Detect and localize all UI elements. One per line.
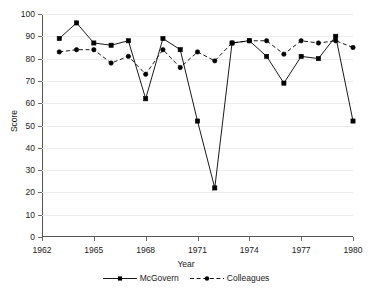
data-point-marker	[351, 119, 355, 123]
chart-legend: McGovernColleagues	[0, 274, 372, 283]
data-point-marker	[316, 57, 320, 61]
data-point-marker	[161, 36, 165, 40]
data-point-marker	[109, 43, 113, 47]
data-point-marker	[351, 45, 355, 49]
data-point-marker	[282, 52, 286, 56]
data-point-marker	[92, 41, 96, 45]
data-point-marker	[161, 47, 165, 51]
data-point-marker	[178, 48, 182, 52]
legend-dashed-line-circle-icon	[190, 274, 224, 283]
series-line	[59, 23, 353, 188]
data-point-marker	[282, 81, 286, 85]
data-point-marker	[213, 186, 217, 190]
legend-item-mcgovern[interactable]: McGovern	[103, 274, 179, 283]
data-point-marker	[92, 47, 96, 51]
data-point-marker	[195, 50, 199, 54]
data-point-marker	[195, 119, 199, 123]
data-point-marker	[334, 34, 338, 38]
data-point-marker	[299, 54, 303, 58]
legend-label: McGovern	[140, 274, 179, 283]
series-layer	[0, 0, 372, 289]
data-point-marker	[265, 54, 269, 58]
data-point-marker	[74, 21, 78, 25]
data-point-marker	[109, 61, 113, 65]
data-point-marker	[57, 50, 61, 54]
line-chart: Score Year 0102030405060708090100 196219…	[0, 0, 372, 289]
data-point-marker	[143, 72, 147, 76]
data-point-marker	[126, 54, 130, 58]
data-point-marker	[213, 59, 217, 63]
data-point-marker	[74, 47, 78, 51]
data-point-marker	[334, 39, 338, 43]
data-point-marker	[144, 97, 148, 101]
data-point-marker	[264, 39, 268, 43]
legend-item-colleagues[interactable]: Colleagues	[190, 274, 270, 283]
data-point-marker	[178, 65, 182, 69]
data-point-marker	[299, 39, 303, 43]
data-point-marker	[230, 41, 234, 45]
legend-label: Colleagues	[227, 274, 270, 283]
data-point-marker	[316, 41, 320, 45]
series-mcgovern	[57, 21, 355, 190]
data-point-marker	[57, 36, 61, 40]
legend-solid-line-square-icon	[103, 274, 137, 283]
data-point-marker	[126, 39, 130, 43]
data-point-marker	[247, 39, 251, 43]
